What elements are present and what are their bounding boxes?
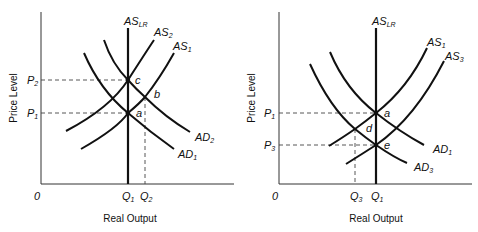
left-y-axis-title: Price Level <box>8 73 19 122</box>
right-p1-label: P1 <box>264 107 275 120</box>
right-origin-label: 0 <box>272 190 279 202</box>
left-ad2-label: AD2 <box>194 131 214 144</box>
right-point-a <box>374 111 378 115</box>
left-as2-label: AS2 <box>153 26 173 39</box>
left-point-c-label: c <box>135 74 141 86</box>
left-p1-label: P1 <box>27 107 38 120</box>
left-point-b-label: b <box>154 88 160 100</box>
left-ad1-label: AD1 <box>177 148 197 161</box>
right-as3-curve <box>346 61 444 164</box>
right-point-a-label: a <box>384 107 390 119</box>
economics-diagrams: ASLR AS2 AS1 AD2 AD1 P2 P1 c b a 0 Q1 Q2… <box>0 0 478 232</box>
right-as-lr-label: ASLR <box>371 15 396 28</box>
left-as-lr-label: ASLR <box>123 15 148 28</box>
right-ad3-curve <box>310 64 407 163</box>
right-ad3-label: AD3 <box>413 161 433 174</box>
left-point-a-label: a <box>136 107 142 119</box>
right-diagram: ASLR AS1 AS3 AD1 AD3 P1 P3 a d e 0 Q3 Q1… <box>246 12 472 224</box>
right-as1-label: AS1 <box>426 36 446 49</box>
right-point-e <box>374 143 378 147</box>
right-as1-curve <box>329 48 427 146</box>
right-q3-label: Q3 <box>350 190 363 203</box>
left-ad2-curve <box>104 40 190 132</box>
right-as3-label: AS3 <box>444 50 464 63</box>
left-x-axis-title: Real Output <box>103 213 157 224</box>
left-origin-label: 0 <box>34 190 41 202</box>
left-point-c <box>126 78 130 82</box>
right-point-d-label: d <box>366 122 373 134</box>
left-diagram: ASLR AS2 AS1 AD2 AD1 P2 P1 c b a 0 Q1 Q2… <box>8 12 234 224</box>
right-p3-label: P3 <box>264 139 275 152</box>
right-point-e-label: e <box>384 139 390 151</box>
right-x-axis-title: Real Output <box>349 213 403 224</box>
left-q1-label: Q1 <box>122 190 135 203</box>
right-y-axis-title: Price Level <box>246 73 257 122</box>
right-ad1-label: AD1 <box>432 143 452 156</box>
left-as1-label: AS1 <box>172 40 192 53</box>
right-q1-label: Q1 <box>371 190 384 203</box>
left-q2-label: Q2 <box>140 190 153 203</box>
left-p2-label: P2 <box>27 74 38 87</box>
left-point-a <box>126 111 130 115</box>
